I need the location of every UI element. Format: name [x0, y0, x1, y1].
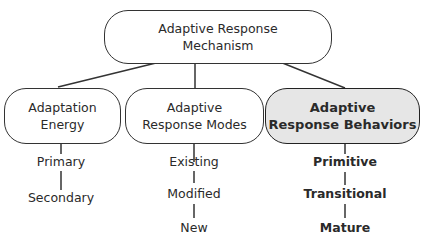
leaf-primary: Primary: [37, 154, 85, 169]
root-label-line2: Mechanism: [182, 37, 253, 54]
branch-label-line1: Adaptation: [28, 99, 96, 116]
branch-node-adaptive-response-behaviors: Adaptive Response Behaviors: [265, 88, 420, 144]
leaf-existing: Existing: [169, 154, 219, 169]
root-label-line1: Adaptive Response: [158, 20, 277, 37]
leaf-transitional: Transitional: [304, 186, 387, 201]
root-node-adaptive-response-mechanism: Adaptive Response Mechanism: [104, 10, 332, 64]
branch-node-adaptation-energy: Adaptation Energy: [4, 88, 121, 144]
branch-label-line1: Adaptive: [310, 99, 375, 116]
branch-node-adaptive-response-modes: Adaptive Response Modes: [125, 88, 264, 144]
leaf-new: New: [180, 220, 207, 235]
leaf-primitive: Primitive: [313, 154, 377, 169]
leaf-secondary: Secondary: [28, 190, 94, 205]
leaf-modified: Modified: [167, 186, 220, 201]
branch-label-line2: Response Modes: [142, 116, 247, 133]
branch-label-line1: Adaptive: [167, 99, 222, 116]
branch-label-line2: Response Behaviors: [269, 116, 417, 133]
leaf-mature: Mature: [320, 220, 370, 235]
branch-label-line2: Energy: [41, 116, 85, 133]
